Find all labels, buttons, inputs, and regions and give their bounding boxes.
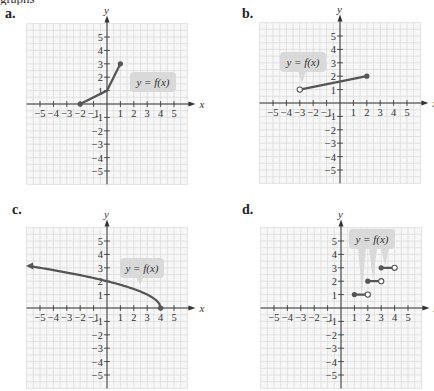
y-tick-label: 5 <box>331 31 336 42</box>
y-axis-label: y <box>336 3 342 15</box>
x-tick-label: 1 <box>118 312 123 323</box>
graph-b-plot: xy−5−4−3−2−11234554321−1−2−3−4−5y = f(x) <box>217 0 434 195</box>
x-tick-label: 5 <box>405 312 410 323</box>
x-tick-label: 2 <box>131 108 136 119</box>
endpoint-dot <box>392 265 397 270</box>
y-tick-label: −2 <box>326 330 337 341</box>
x-tick-label: 5 <box>171 108 176 119</box>
endpoint-dot <box>365 292 370 297</box>
y-axis-label: y <box>103 4 109 16</box>
y-tick-label: 5 <box>332 236 337 247</box>
y-tick-label: −2 <box>92 126 103 137</box>
y-tick-label: 2 <box>332 276 337 287</box>
x-tick-label: −5 <box>34 312 45 323</box>
x-tick-label: −2 <box>75 108 86 119</box>
x-tick-label: −3 <box>61 312 72 323</box>
x-tick-label: −4 <box>48 312 60 323</box>
x-tick-label: 5 <box>404 107 409 118</box>
x-axis-arrow-icon <box>422 306 429 311</box>
x-tick-label: 2 <box>365 312 370 323</box>
endpoint-dot <box>379 265 384 270</box>
x-tick-label: 3 <box>145 312 150 323</box>
x-tick-label: −3 <box>294 107 305 118</box>
y-tick-label: −3 <box>92 343 103 354</box>
y-tick-label: −4 <box>325 152 337 163</box>
endpoint-dot <box>158 305 163 310</box>
y-tick-label: 3 <box>332 263 337 274</box>
y-axis-arrow-icon <box>105 220 110 227</box>
function-label: y = f(x) <box>124 262 158 275</box>
graph-panel-c: c. xy−5−4−3−2−11234554321−1−2−3−4−5y = f… <box>0 196 217 391</box>
endpoint-dot <box>78 101 83 106</box>
x-tick-label: 1 <box>352 312 357 323</box>
y-tick-label: 1 <box>98 290 103 301</box>
y-tick-label: −1 <box>92 316 103 327</box>
x-tick-label: −3 <box>295 312 306 323</box>
x-tick-label: −5 <box>34 108 45 119</box>
y-tick-label: 5 <box>98 32 103 43</box>
y-tick-label: −1 <box>325 111 336 122</box>
y-tick-label: −2 <box>92 330 103 341</box>
x-tick-label: −3 <box>61 108 72 119</box>
x-axis-label: x <box>198 98 204 110</box>
y-tick-label: 1 <box>331 85 336 96</box>
y-axis-label: y <box>103 208 109 220</box>
y-tick-label: 4 <box>98 249 104 260</box>
x-tick-label: 4 <box>158 108 164 119</box>
y-axis-arrow-icon <box>338 15 343 22</box>
x-tick-label: 4 <box>391 107 397 118</box>
x-axis-arrow-icon <box>421 101 428 106</box>
endpoint-dot <box>297 87 302 92</box>
x-tick-label: 1 <box>118 108 123 119</box>
graph-panel-d: d. xy−5−4−3−2−11234554321−1−2−3−4−5y = f… <box>217 196 434 391</box>
y-tick-label: −5 <box>92 370 103 381</box>
x-tick-label: 4 <box>158 312 164 323</box>
function-label: y = f(x) <box>135 76 169 89</box>
y-tick-label: −1 <box>92 112 103 123</box>
graph-panel-a: a. xy−5−4−3−2−11234554321−1−2−3−4−5y = f… <box>0 0 217 195</box>
y-tick-label: 3 <box>98 263 103 274</box>
y-tick-label: 4 <box>332 249 338 260</box>
endpoint-dot <box>352 292 357 297</box>
x-axis-arrow-icon <box>188 102 195 107</box>
endpoint-dot <box>379 279 384 284</box>
y-tick-label: 2 <box>331 71 336 82</box>
y-tick-label: −4 <box>326 357 338 368</box>
graph-c-plot: xy−5−4−3−2−11234554321−1−2−3−4−5y = f(x) <box>0 196 217 391</box>
x-tick-label: −5 <box>268 312 279 323</box>
x-tick-label: −2 <box>308 107 319 118</box>
x-tick-label: 3 <box>378 107 383 118</box>
y-tick-label: −3 <box>325 138 336 149</box>
graph-d-plot: xy−5−4−3−2−11234554321−1−2−3−4−5y = f(x) <box>217 196 434 391</box>
y-tick-label: −5 <box>326 370 337 381</box>
x-tick-label: 3 <box>145 108 150 119</box>
graph-a-plot: xy−5−4−3−2−11234554321−1−2−3−4−5y = f(x) <box>0 0 217 195</box>
y-tick-label: −4 <box>92 153 104 164</box>
x-tick-label: −4 <box>281 107 293 118</box>
y-tick-label: −2 <box>325 125 336 136</box>
y-tick-label: 3 <box>331 58 336 69</box>
x-tick-label: −2 <box>75 312 86 323</box>
function-label: y = f(x) <box>354 233 388 246</box>
endpoint-dot <box>364 74 369 79</box>
y-tick-label: 4 <box>331 44 337 55</box>
y-tick-label: −1 <box>326 316 337 327</box>
y-axis-arrow-icon <box>105 16 110 23</box>
y-tick-label: 3 <box>98 59 103 70</box>
x-tick-label: 5 <box>171 312 176 323</box>
x-tick-label: 3 <box>379 312 384 323</box>
y-tick-label: 1 <box>332 290 337 301</box>
y-tick-label: −3 <box>92 139 103 150</box>
y-axis-arrow-icon <box>339 220 344 227</box>
y-tick-label: −3 <box>326 343 337 354</box>
x-tick-label: −5 <box>267 107 278 118</box>
x-axis-arrow-icon <box>188 306 195 311</box>
endpoint-dot <box>118 61 123 66</box>
x-tick-label: 2 <box>364 107 369 118</box>
endpoint-dot <box>365 279 370 284</box>
y-axis-label: y <box>337 208 343 220</box>
y-tick-label: 2 <box>98 72 103 83</box>
x-tick-label: 2 <box>131 312 136 323</box>
y-tick-label: 4 <box>98 45 104 56</box>
y-tick-label: −4 <box>92 357 104 368</box>
